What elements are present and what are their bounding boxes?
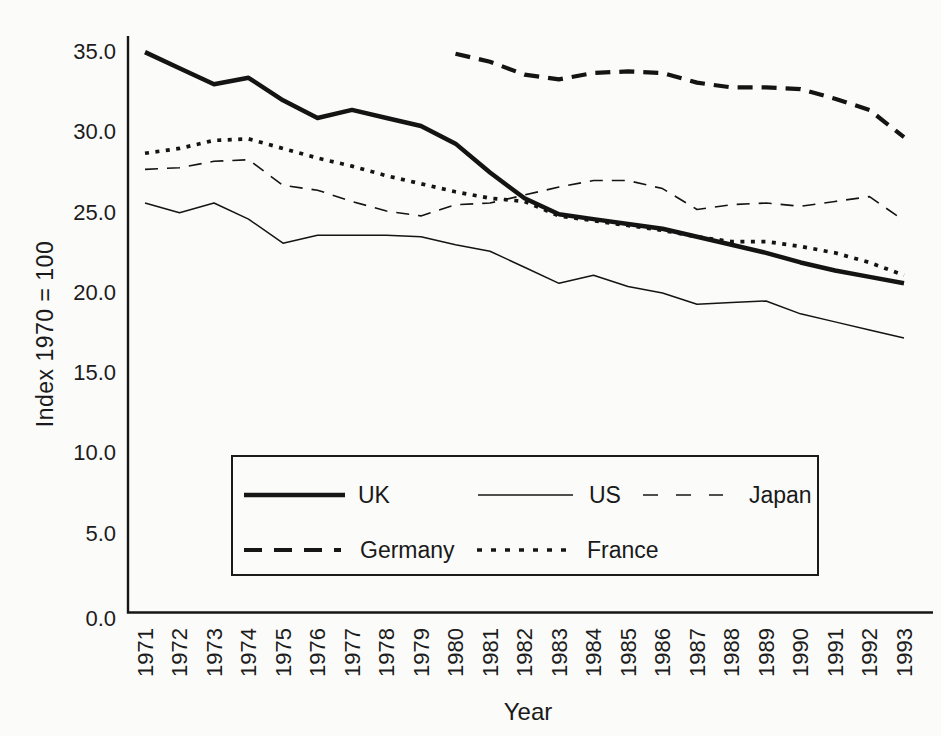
x-tick-label: 1991 <box>823 628 848 677</box>
y-tick-label: 5.0 <box>85 521 116 546</box>
y-tick-label: 10.0 <box>73 440 116 465</box>
series-line-us <box>145 203 904 338</box>
x-tick-label: 1989 <box>754 628 779 677</box>
x-tick-label: 1972 <box>167 628 192 677</box>
x-tick-label: 1990 <box>788 628 813 677</box>
x-tick-label: 1993 <box>892 628 917 677</box>
y-tick-label: 0.0 <box>85 606 116 631</box>
series-line-germany <box>456 54 905 137</box>
legend-line-japan <box>642 489 724 501</box>
legend-entry-us: US <box>477 481 621 509</box>
series-line-japan <box>145 160 904 221</box>
x-tick-label: 1983 <box>547 628 572 677</box>
y-tick-label: 15.0 <box>73 360 116 385</box>
x-tick-label: 1977 <box>340 628 365 677</box>
y-tick-label: 25.0 <box>73 200 116 225</box>
chart-figure: 35.030.025.020.015.010.05.00.01971197219… <box>0 0 941 736</box>
series-line-france <box>145 139 904 275</box>
y-tick-label: 20.0 <box>73 280 116 305</box>
x-tick-label: 1986 <box>650 628 675 677</box>
legend-label-japan: Japan <box>749 482 812 509</box>
x-tick-label: 1971 <box>133 628 158 677</box>
y-axis-title: Index 1970 = 100 <box>32 241 59 427</box>
x-axis-title: Year <box>504 698 553 726</box>
x-tick-label: 1974 <box>236 628 261 677</box>
legend-line-uk <box>243 489 346 501</box>
x-tick-label: 1992 <box>857 628 882 677</box>
x-tick-label: 1988 <box>719 628 744 677</box>
x-tick-label: 1979 <box>409 628 434 677</box>
legend: UK US Japan Germany France <box>231 455 819 576</box>
legend-line-us <box>477 489 574 501</box>
x-tick-label: 1984 <box>581 628 606 677</box>
y-tick-label: 35.0 <box>73 39 116 64</box>
legend-label-uk: UK <box>358 482 390 509</box>
y-tick-label: 30.0 <box>73 119 116 144</box>
legend-label-us: US <box>589 482 621 509</box>
legend-entry-france: France <box>476 536 659 564</box>
legend-entry-japan: Japan <box>642 481 812 509</box>
x-tick-label: 1987 <box>685 628 710 677</box>
x-tick-label: 1985 <box>616 628 641 677</box>
x-tick-label: 1980 <box>443 628 468 677</box>
legend-entry-germany: Germany <box>243 536 455 564</box>
x-tick-label: 1981 <box>478 628 503 677</box>
legend-line-germany <box>243 544 342 556</box>
x-tick-label: 1975 <box>271 628 296 677</box>
x-tick-label: 1976 <box>305 628 330 677</box>
x-tick-label: 1973 <box>202 628 227 677</box>
x-tick-label: 1978 <box>374 628 399 677</box>
legend-label-germany: Germany <box>360 537 455 564</box>
plot-area: 35.030.025.020.015.010.05.00.01971197219… <box>0 0 941 736</box>
legend-entry-uk: UK <box>243 481 390 509</box>
x-tick-label: 1982 <box>512 628 537 677</box>
legend-label-france: France <box>587 537 659 564</box>
legend-line-france <box>476 544 576 556</box>
